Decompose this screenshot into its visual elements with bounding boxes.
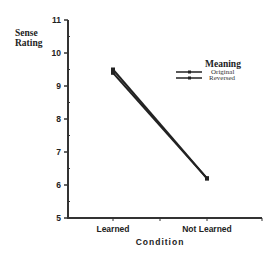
x-tick-label: Learned (96, 224, 129, 234)
y-axis-label-line2: Rating (15, 38, 43, 48)
data-point-marker (205, 176, 209, 180)
series-lines (111, 68, 209, 181)
y-tick-label: 9 (56, 81, 61, 91)
x-axis-label: Condition (136, 237, 185, 247)
x-ticks: LearnedNot Learned (96, 218, 262, 234)
y-tick-label: 10 (52, 48, 62, 58)
legend-label-reversed: Reversed (209, 74, 236, 82)
y-tick-label: 6 (56, 180, 61, 190)
y-tick-label: 7 (56, 147, 61, 157)
y-axis-label-line1: Sense (15, 28, 38, 38)
y-tick-label: 5 (56, 213, 61, 223)
legend: Meaning Original Reversed (176, 59, 241, 82)
line-chart: Sense Rating 567891011 LearnedNot Learne… (0, 0, 269, 258)
y-tick-label: 8 (56, 114, 61, 124)
series-line-reversed (113, 73, 207, 179)
y-tick-label: 11 (52, 15, 61, 25)
legend-marker-original (188, 71, 191, 74)
x-tick-label: Not Learned (182, 224, 232, 234)
legend-marker-reversed (188, 77, 191, 80)
data-point-marker (111, 71, 115, 75)
